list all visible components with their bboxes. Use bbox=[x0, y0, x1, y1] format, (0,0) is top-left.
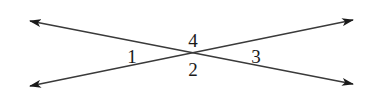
diagram-canvas: 1 4 2 3 bbox=[0, 0, 372, 94]
angle-label-3: 3 bbox=[251, 46, 261, 67]
angle-label-2: 2 bbox=[188, 59, 198, 80]
angle-label-1: 1 bbox=[127, 46, 137, 67]
intersecting-lines-diagram: 1 4 2 3 bbox=[0, 0, 372, 94]
angle-label-4: 4 bbox=[188, 30, 198, 51]
